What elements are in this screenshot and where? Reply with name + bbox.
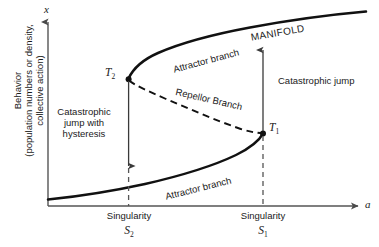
fold-point-T1-label: T1 <box>269 121 279 137</box>
singularity-S1-label: Singularity <box>222 210 304 221</box>
y-axis-symbol: x <box>44 3 49 16</box>
fold-T1-subscript: 1 <box>275 127 279 136</box>
fold-T2-subscript: 2 <box>111 72 115 81</box>
lower-attractor-branch-curve <box>48 134 263 200</box>
upper-attractor-branch-curve <box>129 12 367 79</box>
catastrophic-jump-up-label: Catastrophic jump <box>278 75 355 86</box>
sing-S2-subscript: 2 <box>130 230 134 239</box>
y-axis-label: Behavior (population numbers or density,… <box>12 3 45 179</box>
jump-down-line-3: hysteresis <box>44 128 124 139</box>
fold-point-T1-marker <box>260 130 266 136</box>
singularity-S2-symbol: S2 <box>88 224 170 240</box>
x-axis-symbol: a <box>365 198 371 211</box>
catastrophic-jump-down-label: Catastrophic jump with hysteresis <box>44 106 124 140</box>
y-axis-label-line-1: Behavior <box>12 3 23 179</box>
y-axis-label-line-3: collective action) <box>34 3 45 179</box>
repellor-branch-curve <box>129 81 263 134</box>
singularity-S2-label: Singularity <box>88 210 170 221</box>
figure-container: x a Behavior (population numbers or dens… <box>0 0 379 247</box>
jump-down-line-2: jump with <box>44 117 124 128</box>
singularity-S1-symbol: S1 <box>222 224 304 240</box>
sing-S1-subscript: 1 <box>264 230 268 239</box>
fold-point-T2-label: T2 <box>105 66 115 82</box>
y-axis-label-line-2: (population numbers or density, <box>23 3 34 179</box>
jump-down-line-1: Catastrophic <box>44 106 124 117</box>
